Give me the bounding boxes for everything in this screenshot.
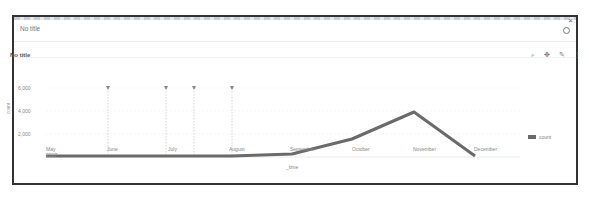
x-tick: December <box>474 146 497 152</box>
legend-swatch <box>528 135 536 139</box>
x-tick: October <box>352 146 370 152</box>
legend-item[interactable]: count <box>528 134 551 140</box>
x-tick: September <box>290 146 314 152</box>
x-axis-label: _time <box>286 164 298 170</box>
x-tick: May2017 <box>46 146 57 158</box>
x-tick: June <box>107 146 118 152</box>
x-tick: July <box>168 146 177 152</box>
x-tick: August <box>229 146 245 152</box>
x-tick: November <box>413 146 436 152</box>
legend-label: count <box>539 134 551 140</box>
line-chart <box>0 0 589 206</box>
